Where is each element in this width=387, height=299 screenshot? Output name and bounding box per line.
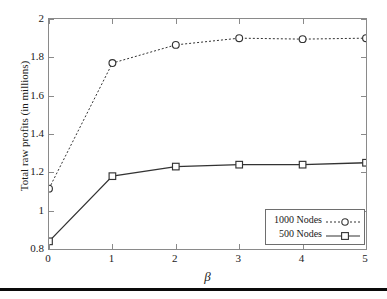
x-axis-tick — [112, 19, 113, 24]
y-axis-tick — [49, 211, 54, 212]
x-axis-tick-label: 5 — [362, 253, 368, 264]
legend-label: 500 Nodes — [279, 229, 322, 239]
data-point-marker — [299, 36, 306, 43]
y-axis-tick — [361, 249, 366, 250]
legend-item-1000-nodes: 1000 Nodes — [271, 213, 360, 227]
x-axis-tick — [49, 244, 50, 249]
legend: 1000 Nodes 500 Nodes — [265, 209, 365, 245]
x-axis-tick-label: 1 — [109, 253, 115, 264]
x-axis-tick-label: 0 — [45, 253, 51, 264]
x-axis-tick — [239, 19, 240, 24]
x-axis-tick — [366, 244, 367, 249]
y-axis-tick-label: 1.4 — [30, 128, 44, 139]
x-axis-tick-label: 3 — [235, 253, 241, 264]
page-bottom-rule — [0, 288, 387, 291]
data-point-marker — [363, 159, 366, 166]
y-axis-tick — [361, 134, 366, 135]
y-axis-tick-label: 1.8 — [30, 51, 44, 62]
data-point-marker — [363, 35, 366, 42]
x-axis-tick-labels: 012345 — [48, 253, 367, 269]
y-axis-tick-label: 1.6 — [30, 89, 44, 100]
x-axis-tick — [112, 244, 113, 249]
data-point-marker — [109, 173, 116, 180]
x-axis-tick — [239, 244, 240, 249]
x-axis-title: β — [48, 270, 367, 284]
data-point-marker — [109, 60, 116, 67]
figure-chart-total-raw-profits: 0.811.21.41.61.82 Total raw profits (in … — [0, 0, 387, 299]
x-axis-tick-label: 2 — [172, 253, 178, 264]
y-axis-tick — [49, 172, 54, 173]
y-axis-tick — [361, 172, 366, 173]
x-axis-tick — [49, 19, 50, 24]
y-axis-tick — [361, 57, 366, 58]
y-axis-tick-label: 1.2 — [30, 166, 44, 177]
y-axis-tick — [49, 249, 54, 250]
x-axis-tick — [176, 244, 177, 249]
x-axis-tick — [366, 19, 367, 24]
x-axis-tick — [176, 19, 177, 24]
legend-swatch-dotted-circle — [326, 214, 360, 226]
x-axis-tick-label: 4 — [299, 253, 305, 264]
y-axis-tick — [49, 57, 54, 58]
legend-item-500-nodes: 500 Nodes — [271, 227, 360, 241]
data-point-marker — [173, 163, 180, 170]
y-axis-title: Total raw profits (in millions) — [18, 16, 30, 236]
data-point-marker — [49, 185, 52, 192]
data-point-marker — [236, 35, 243, 42]
legend-swatch-solid-square — [326, 228, 360, 240]
data-point-marker — [172, 41, 179, 48]
y-axis-tick — [49, 96, 54, 97]
y-axis-tick-label: 1 — [39, 204, 45, 215]
y-axis-tick — [49, 134, 54, 135]
y-axis-tick-label: 0.8 — [30, 243, 44, 254]
y-axis-tick — [361, 96, 366, 97]
data-point-marker — [236, 161, 243, 168]
data-point-marker — [299, 161, 306, 168]
y-axis-tick-label: 2 — [39, 13, 45, 24]
legend-label: 1000 Nodes — [274, 215, 322, 225]
x-axis-tick — [303, 19, 304, 24]
